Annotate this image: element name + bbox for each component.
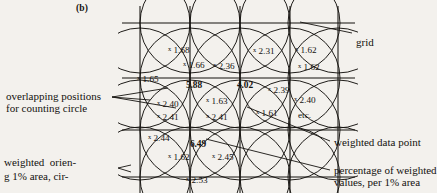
annotation-etc: etc. bbox=[298, 110, 311, 120]
data-point-7: 5.88 bbox=[186, 80, 202, 91]
data-point-15: x 1.61 bbox=[256, 108, 278, 118]
data-point-value-14: 2.41 bbox=[209, 112, 227, 122]
data-point-value-13: 1.63 bbox=[209, 96, 227, 106]
data-point-value-5: 1.62 bbox=[298, 45, 316, 55]
data-point-value-2: 1.65 bbox=[140, 74, 158, 84]
annotation-overlapping-line1: overlapping positions bbox=[6, 90, 101, 103]
data-point-value-6: 1.62 bbox=[301, 62, 319, 72]
data-point-value-9: 2.39 bbox=[271, 85, 289, 95]
data-point-8: 4.02 bbox=[237, 80, 253, 91]
data-point-value-15: 1.61 bbox=[259, 108, 277, 118]
data-point-19: x 2.45 bbox=[212, 152, 234, 162]
data-point-value-0: 1.68 bbox=[171, 45, 189, 55]
annotation-percentage-line2: values, per 1% area bbox=[334, 176, 420, 189]
data-point-value-12: 2.41 bbox=[160, 112, 178, 122]
data-point-value-18: 1.62 bbox=[171, 152, 189, 162]
data-point-4: x 2.31 bbox=[253, 46, 275, 56]
leader-column-stub bbox=[118, 168, 131, 172]
data-point-16: x 2.44 bbox=[148, 133, 170, 143]
data-point-value-10: 2.40 bbox=[297, 95, 315, 105]
annotation-overlapping-line2: for counting circle bbox=[6, 102, 87, 115]
annotation-percentage-line1: percentage of weighted bbox=[334, 164, 437, 177]
data-point-value-16: 2.44 bbox=[151, 133, 169, 143]
data-point-1: x 1.66 bbox=[183, 60, 205, 70]
data-point-12: x 2.41 bbox=[157, 112, 179, 122]
data-point-10: x 2.40 bbox=[294, 95, 316, 105]
annotation-grid: grid bbox=[356, 36, 374, 49]
data-point-20: x 2.53 bbox=[186, 175, 208, 185]
data-point-2: x 1.65 bbox=[137, 74, 159, 84]
data-point-value-11: 2.40 bbox=[160, 99, 178, 109]
data-point-3: x 2.36 bbox=[213, 61, 235, 71]
data-point-value-3: 2.36 bbox=[216, 61, 234, 71]
data-point-0: x 1.68 bbox=[168, 45, 190, 55]
data-point-value-4: 2.31 bbox=[256, 46, 274, 56]
data-point-14: x 2.41 bbox=[206, 112, 228, 122]
data-point-value-19: 2.45 bbox=[215, 152, 233, 162]
annotation-weighted-data-point: weighted data point bbox=[334, 136, 421, 149]
data-point-18: x 1.62 bbox=[168, 152, 190, 162]
data-point-5: x 1.62 bbox=[295, 45, 317, 55]
panel-label: (b) bbox=[76, 3, 88, 14]
data-point-17: 6.49 bbox=[190, 139, 206, 150]
data-point-11: x 2.40 bbox=[157, 99, 179, 109]
data-point-6: x 1.62 bbox=[298, 62, 320, 72]
data-point-9: x 2.39 bbox=[268, 85, 290, 95]
column-text-line2: g 1% area, cir- bbox=[4, 170, 69, 183]
leader-column-stub-2 bbox=[118, 165, 131, 168]
data-point-13: x 1.63 bbox=[206, 96, 228, 106]
data-point-value-1: 1.66 bbox=[186, 60, 204, 70]
data-point-value-20: 2.53 bbox=[189, 175, 207, 185]
column-text-line1: weighted orien- bbox=[4, 156, 76, 169]
